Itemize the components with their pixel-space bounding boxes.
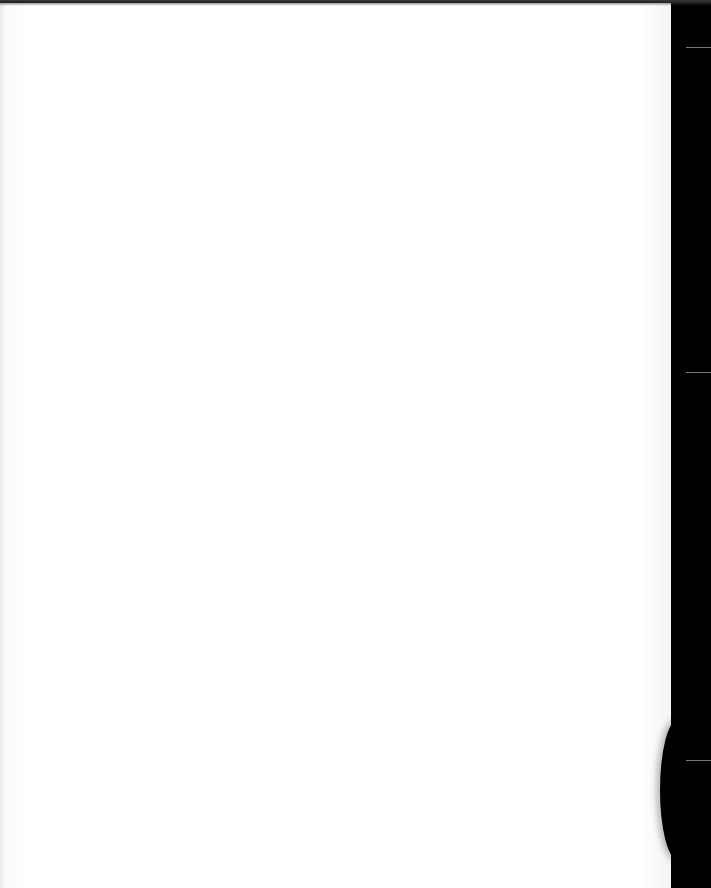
paper-curl [660,720,690,860]
edge-glint [686,47,711,48]
blank-paper-sheet [0,3,671,888]
edge-glint [686,760,711,761]
top-edge-shadow [0,0,711,6]
edge-glint [686,372,711,373]
